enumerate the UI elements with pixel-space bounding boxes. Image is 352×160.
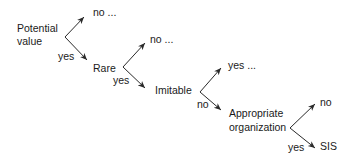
edge-appropriate-organization-up-label: no bbox=[320, 96, 332, 108]
edge-imitable-down-label: no bbox=[197, 98, 209, 110]
edge-potential-value-down-label: yes bbox=[58, 50, 74, 62]
edge-potential-value-up-label: no ... bbox=[93, 6, 116, 18]
arrow-up-icon bbox=[65, 17, 84, 37]
node-sis: SIS bbox=[320, 140, 337, 152]
node-potential-value-line2: value bbox=[17, 35, 42, 47]
node-rare: Rare bbox=[93, 62, 116, 74]
edge-imitable-up-label: yes ... bbox=[228, 59, 256, 71]
arrow-up-icon bbox=[290, 104, 315, 128]
edge-rare-up-label: no ... bbox=[150, 33, 173, 45]
node-appropriate-organization-line2: organization bbox=[229, 121, 286, 133]
node-potential-value-line1: Potential bbox=[17, 22, 58, 34]
arrow-up-icon bbox=[200, 68, 221, 92]
edge-rare-down-label: yes bbox=[113, 74, 129, 86]
arrow-up-icon bbox=[123, 43, 145, 67]
edge-appropriate-organization-down-label: yes bbox=[288, 141, 304, 153]
node-imitable: Imitable bbox=[155, 84, 192, 96]
node-appropriate-organization-line1: Appropriate bbox=[229, 107, 283, 119]
